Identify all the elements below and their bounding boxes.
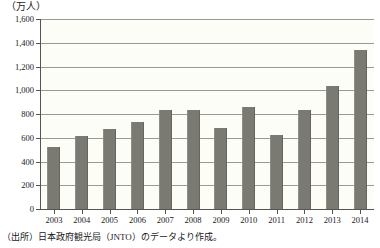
bar	[159, 110, 172, 209]
y-tick-mark	[36, 138, 40, 139]
y-tick-mark	[36, 185, 40, 186]
bar	[242, 107, 255, 209]
x-tick-mark	[193, 210, 194, 214]
gridline	[40, 43, 374, 44]
gridline	[40, 138, 374, 139]
y-tick-label: 400	[0, 158, 34, 167]
y-tick-label: 1,400	[0, 39, 34, 48]
bar	[187, 110, 200, 209]
bar	[326, 86, 339, 209]
x-tick-mark	[249, 210, 250, 214]
bar	[131, 122, 144, 209]
y-axis-line	[40, 19, 41, 210]
x-axis-line	[40, 209, 374, 210]
gridline	[40, 114, 374, 115]
y-tick-mark	[36, 43, 40, 44]
x-tick-mark	[165, 210, 166, 214]
bar	[103, 129, 116, 209]
y-tick-mark	[36, 162, 40, 163]
gridline	[40, 162, 374, 163]
bar-chart-figure: （万人） 02004006008001,0001,2001,4001,600 2…	[0, 0, 380, 248]
bar	[214, 128, 227, 209]
x-tick-mark	[110, 210, 111, 214]
x-tick-mark	[277, 210, 278, 214]
y-tick-mark	[36, 19, 40, 20]
x-tick-mark	[332, 210, 333, 214]
gridline	[40, 90, 374, 91]
gridline	[40, 67, 374, 68]
x-tick-mark	[360, 210, 361, 214]
x-tick-mark	[54, 210, 55, 214]
y-tick-label: 0	[0, 205, 34, 214]
bar	[354, 50, 367, 209]
source-note: （出所）日本政府観光局（JNTO）のデータより作成。	[2, 231, 222, 243]
y-tick-label: 1,600	[0, 15, 34, 24]
x-tick-mark	[221, 210, 222, 214]
y-tick-label: 600	[0, 134, 34, 143]
bar	[47, 147, 60, 209]
y-tick-label: 1,000	[0, 86, 34, 95]
bar	[270, 135, 283, 209]
y-tick-label: 200	[0, 181, 34, 190]
y-tick-mark	[36, 114, 40, 115]
x-tick-label: 2014	[340, 215, 380, 225]
y-tick-mark	[36, 90, 40, 91]
x-tick-mark	[137, 210, 138, 214]
y-tick-label: 800	[0, 110, 34, 119]
y-tick-label: 1,200	[0, 63, 34, 72]
gridline	[40, 19, 374, 20]
plot-area	[40, 19, 374, 209]
gridline	[40, 185, 374, 186]
bar	[75, 136, 88, 209]
y-tick-mark	[36, 67, 40, 68]
x-tick-mark	[82, 210, 83, 214]
y-axis-unit-label: （万人）	[6, 0, 46, 13]
bar	[298, 110, 311, 209]
x-tick-mark	[304, 210, 305, 214]
